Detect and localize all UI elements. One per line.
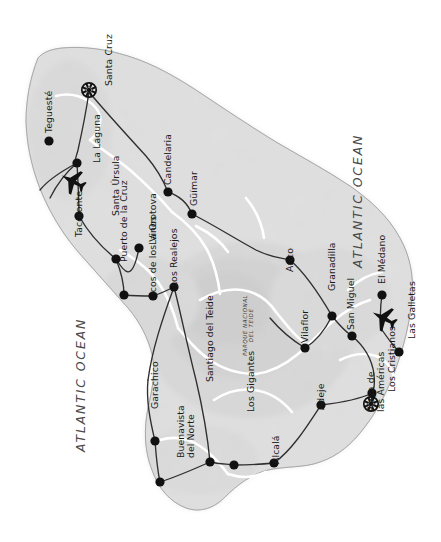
town-label-el-medano: El Médano [377,235,386,284]
town-label-granadilla: Granadilla [327,242,336,291]
town-dot-la-laguna[interactable] [72,158,81,167]
town-label-alcala: Alcalá [271,435,280,464]
resort-label-playa-de-las-americas: Playa delas Américas [366,352,386,412]
park-label-teide: PARQUE NACIONALDEL TEIDE [242,295,254,356]
town-dot-puerto-de-la-cruz[interactable] [119,290,128,299]
town-label-tacoronte: Tacoronte [74,191,83,237]
town-dot-los-gigantes[interactable] [229,460,238,469]
town-label-arico: Arico [285,248,294,272]
map-graphic [0,0,441,542]
ocean-label-southwest: ATLANTIC OCEAN [75,318,88,452]
map-canvas: TeguestéLa LagunaCandelariaGüímarTacoron… [0,0,441,542]
town-label-buenavista: Buenavistadel Norte [176,405,196,458]
town-label-icos-de-los-vinos: Icos de los Vinos [148,216,157,295]
town-dot-buenavista[interactable] [155,477,164,486]
town-label-las-galletas: Las Galletas [407,281,416,339]
town-dot-guimar[interactable] [187,209,196,218]
town-label-san-miguel: San Miguel [346,278,355,330]
town-dot-la-orotova[interactable] [134,243,143,252]
town-label-vilaflor: Vilaflor [300,310,309,343]
town-label-buenavista-line2: del Norte [186,405,196,458]
resort-label-playa-de-las-americas-line2: las Américas [376,352,386,412]
town-dot-santiago-del-teide[interactable] [205,457,214,466]
ocean-label-northeast: ATLANTIC OCEAN [352,134,365,268]
town-label-la-laguna: La Laguna [92,114,101,163]
town-dot-candelaria[interactable] [163,187,172,196]
town-label-guimar: Güímar [189,171,198,206]
town-label-tegueste: Teguesté [44,91,53,133]
town-label-garachico: Garachico [150,361,159,409]
town-dot-el-medano[interactable] [377,290,386,299]
town-label-puerto-de-la-cruz: Puerto de la Cruz [119,180,128,262]
park-label-teide-line2: DEL TEIDE [248,295,254,356]
town-dot-garachico[interactable] [150,436,159,445]
town-label-los-gigantes: Los Gigantes [246,351,255,412]
town-label-santiago-del-teide: Santiago del Teide [205,295,214,382]
town-label-candelaria: Candelaria [163,134,172,185]
town-dot-vilaflor[interactable] [300,343,309,352]
town-dot-tegueste[interactable] [44,136,53,145]
town-dot-granadilla[interactable] [327,311,336,320]
town-dot-san-miguel[interactable] [347,331,356,340]
town-label-los-realejos: Los Realejos [169,228,178,287]
town-label-los-cristianos: Los Cristianos [387,326,396,392]
capital-label-santa-cruz: Santa Cruz [104,34,113,86]
town-label-adeje: Adeje [316,383,325,410]
